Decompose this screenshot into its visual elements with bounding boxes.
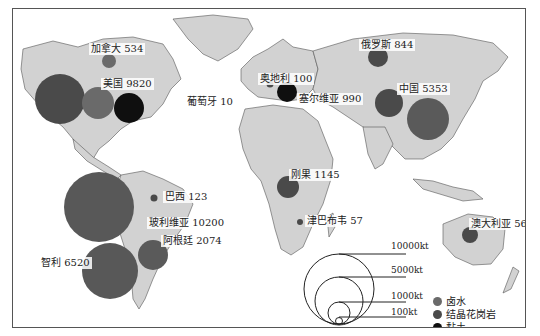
label-serbia: 塞尔维亚 990	[297, 93, 363, 105]
circle-usa-granite	[35, 74, 85, 124]
circle-serbia	[277, 82, 297, 102]
scale-label-10000: 10000kt	[391, 241, 429, 251]
circle-brazil	[151, 195, 158, 202]
circle-usa-brine	[82, 87, 114, 119]
world-map: 加拿大 534 美国 9820 葡萄牙 10 奥地利 100 塞尔维亚 990 …	[12, 8, 526, 328]
map-canvas	[13, 9, 525, 327]
label-bolivia: 玻利维亚 10200	[147, 217, 226, 229]
label-brazil: 巴西 123	[163, 191, 209, 203]
indonesia	[413, 179, 483, 201]
greenland	[173, 15, 253, 61]
clay-dot-icon	[433, 323, 442, 328]
circle-chile	[82, 243, 138, 299]
legend-brine: 卤水	[433, 296, 466, 308]
brine-dot-icon	[433, 297, 442, 306]
new-zealand	[503, 267, 519, 293]
label-australia: 澳大利亚 560	[469, 218, 526, 230]
label-usa: 美国 9820	[101, 78, 154, 90]
label-canada: 加拿大 534	[89, 43, 145, 55]
granite-dot-icon	[433, 310, 442, 319]
label-russia: 俄罗斯 844	[359, 39, 415, 51]
scale-label-1000: 1000kt	[391, 291, 423, 301]
circle-usa-clay	[114, 93, 144, 123]
legend-granite: 结晶花岗岩	[433, 309, 496, 321]
circle-zimbabwe	[297, 219, 303, 225]
scale-label-100: 100kt	[391, 307, 417, 317]
legend-clay: 黏土	[433, 322, 466, 328]
scale-label-5000: 5000kt	[391, 265, 423, 275]
circle-canada	[102, 54, 116, 68]
circle-china-brine	[407, 98, 449, 140]
label-austria: 奥地利 100	[258, 73, 314, 85]
label-portugal: 葡萄牙 10	[185, 96, 235, 108]
label-argentina: 阿根廷 2074	[161, 235, 224, 247]
label-china: 中国 5353	[397, 83, 450, 95]
label-congo: 刚果 1145	[289, 169, 342, 181]
label-zimbabwe: 津巴布韦 57	[305, 215, 365, 227]
label-chile: 智利 6520	[39, 257, 92, 269]
circle-bolivia	[64, 172, 134, 242]
